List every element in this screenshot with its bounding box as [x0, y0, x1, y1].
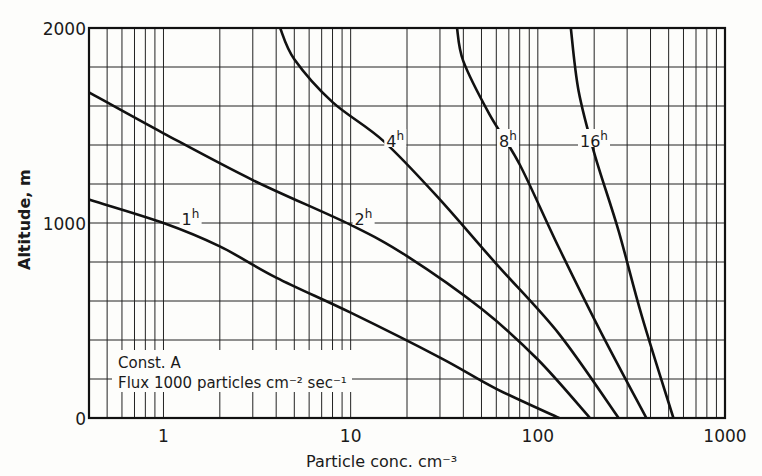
annotation-constant: Const. A	[118, 354, 181, 372]
legend-annotation: Const. A Flux 1000 particles cm⁻² sec⁻¹	[112, 350, 352, 392]
x-axis-title: Particle conc. cm⁻³	[306, 452, 457, 471]
y-axis-title: Altitude, m	[15, 169, 34, 270]
curve-labels: 1h2h4h8h16h	[180, 129, 610, 229]
curve-label-16h: 16h	[580, 129, 608, 151]
y-tick-labels: 010002000	[43, 19, 86, 429]
y-tick-label: 1000	[43, 214, 86, 234]
x-tick-label: 1000	[703, 426, 746, 446]
x-tick-labels: 1101001000	[158, 426, 747, 446]
y-tick-label: 0	[75, 409, 86, 429]
altitude-vs-concentration-chart: 1h2h4h8h16h 1101001000 010002000 Particl…	[0, 0, 762, 476]
annotation-flux: Flux 1000 particles cm⁻² sec⁻¹	[118, 374, 347, 392]
curve-label-8h: 8h	[499, 129, 517, 151]
curve-label-1h: 1h	[182, 207, 200, 229]
x-tick-label: 10	[340, 426, 362, 446]
y-tick-label: 2000	[43, 19, 86, 39]
x-tick-label: 100	[522, 426, 554, 446]
x-tick-label: 1	[158, 426, 169, 446]
curve-label-2h: 2h	[355, 207, 373, 229]
curve-label-4h: 4h	[386, 129, 404, 151]
